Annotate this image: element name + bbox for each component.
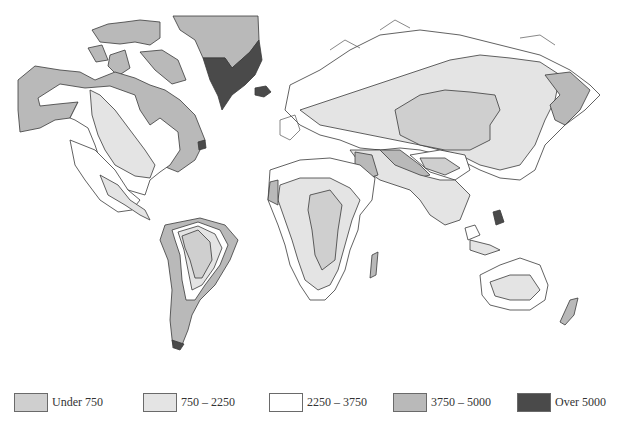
south-america [160,218,238,350]
legend-swatch [393,393,427,412]
world-map [0,0,628,360]
arctic-islands [88,20,186,84]
legend-label: Under 750 [52,395,103,410]
north-america [18,66,206,220]
eurasia [285,30,600,180]
legend-item-under-750: Under 750 [14,391,103,413]
oceania [480,258,578,325]
greenland [173,16,271,110]
legend-item-750-2250: 750 – 2250 [143,391,235,413]
africa [268,158,378,300]
legend-item-3750-5000: 3750 – 5000 [393,391,491,413]
legend-label: 750 – 2250 [181,395,235,410]
legend-item-over-5000: Over 5000 [517,391,606,413]
legend-label: 3750 – 5000 [431,395,491,410]
iceland [255,86,271,97]
legend-item-2250-3750: 2250 – 3750 [269,391,367,413]
legend-swatch [517,393,551,412]
legend-swatch [143,393,177,412]
legend-label: Over 5000 [555,395,606,410]
legend-swatch [14,393,48,412]
legend-label: 2250 – 3750 [307,395,367,410]
legend: Under 750 750 – 2250 2250 – 3750 3750 – … [0,391,628,413]
legend-swatch [269,393,303,412]
